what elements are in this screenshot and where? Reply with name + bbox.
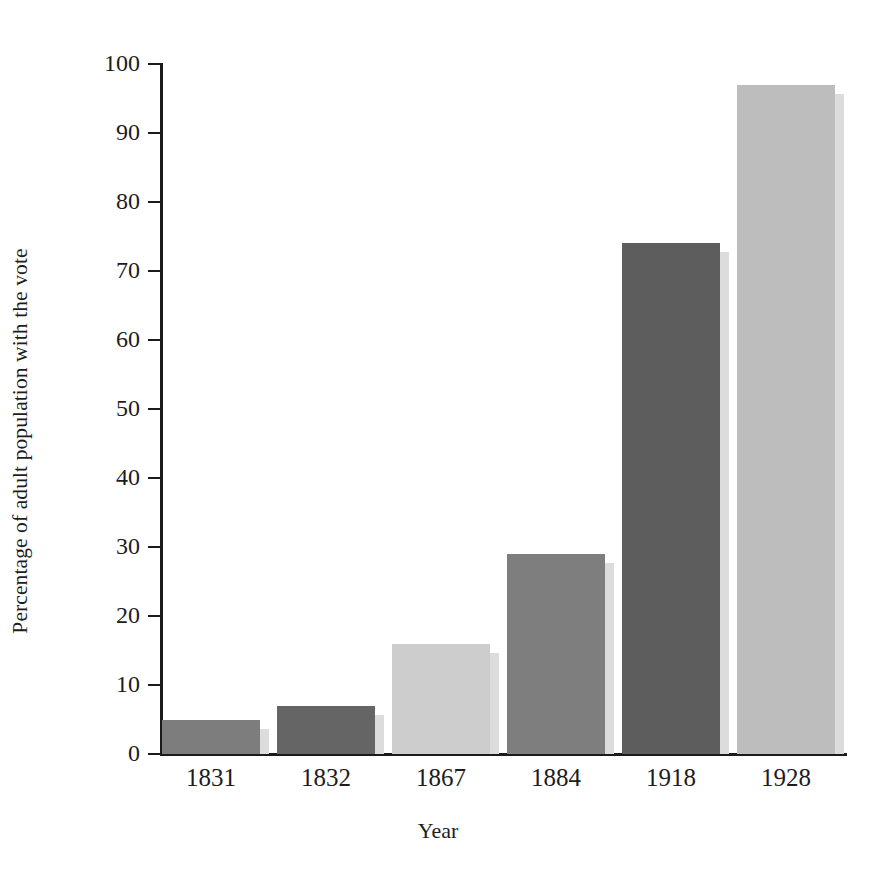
y-axis-tick: [148, 339, 161, 341]
y-axis-tick: [148, 270, 161, 272]
y-axis-tick: [148, 408, 161, 410]
bar-shadow: [605, 563, 614, 754]
bar-1928: [737, 85, 835, 754]
bar-shadow: [720, 252, 729, 754]
bar-1867: [392, 644, 490, 754]
y-axis-tick: [148, 132, 161, 134]
y-axis-tick-label: 90: [78, 120, 140, 144]
y-axis-tick: [148, 753, 161, 755]
y-axis-tick-label: 50: [78, 396, 140, 420]
y-axis-tick-label: 10: [78, 672, 140, 696]
x-axis-tick-label: 1884: [497, 765, 615, 790]
y-axis-tick-label: 100: [78, 51, 140, 75]
bar-shadow: [490, 653, 499, 754]
bar-chart: Percentage of adult population with the …: [0, 0, 876, 882]
bar-1884: [507, 554, 605, 754]
y-axis-tick: [148, 63, 161, 65]
y-axis-tick-label: 20: [78, 603, 140, 627]
y-axis-tick-label: 0: [78, 741, 140, 765]
y-axis-tick-label: 60: [78, 327, 140, 351]
bar-shadow: [375, 715, 384, 754]
x-axis-tick-label: 1832: [267, 765, 385, 790]
y-axis-tick: [148, 201, 161, 203]
y-axis-title: Percentage of adult population with the …: [0, 0, 40, 882]
y-axis-tick: [148, 477, 161, 479]
x-axis-title: Year: [0, 818, 876, 844]
x-axis-tick-label: 1918: [612, 765, 730, 790]
y-axis-tick-label: 70: [78, 258, 140, 282]
y-axis-tick: [148, 684, 161, 686]
y-axis-tick-label: 80: [78, 189, 140, 213]
x-axis-tick-label: 1831: [152, 765, 270, 790]
bar-shadow: [835, 94, 844, 754]
y-axis-tick-label: 30: [78, 534, 140, 558]
y-axis-tick: [148, 546, 161, 548]
bar-shadow: [260, 729, 269, 755]
x-axis-tick-label: 1928: [727, 765, 845, 790]
y-axis-tick-label: 40: [78, 465, 140, 489]
bar-1832: [277, 706, 375, 754]
y-axis-tick: [148, 615, 161, 617]
bar-1831: [162, 720, 260, 755]
bar-1918: [622, 243, 720, 754]
x-axis-tick-label: 1867: [382, 765, 500, 790]
